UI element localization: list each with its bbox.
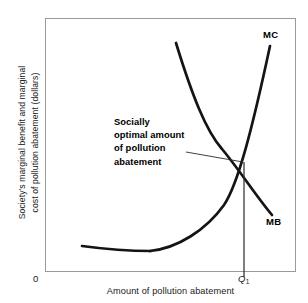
q1-letter: Q xyxy=(238,273,245,284)
q1-subscript: 1 xyxy=(246,278,250,285)
origin-label: 0 xyxy=(33,273,38,284)
mc-curve-label: MC xyxy=(263,29,278,40)
socially-optimal-annotation: Socially optimal amount of pollution aba… xyxy=(114,115,185,168)
mb-curve-label: MB xyxy=(266,216,281,227)
economics-figure: Society's marginal benefit and marginal … xyxy=(0,0,308,303)
q1-axis-tick-label: Q1 xyxy=(238,273,249,284)
y-axis-label: Society's marginal benefit and marginal … xyxy=(16,18,41,268)
x-axis-label: Amount of pollution abatement xyxy=(45,286,296,296)
